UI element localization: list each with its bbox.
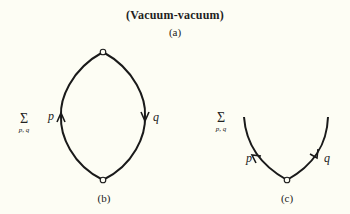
line-q bbox=[287, 117, 328, 180]
panel-c-lines bbox=[244, 117, 328, 180]
vertex-top-icon bbox=[100, 49, 106, 55]
arrow-q-icon bbox=[310, 149, 318, 158]
sum-symbol-c: Σ bbox=[211, 111, 231, 125]
panel-b-label: (b) bbox=[84, 192, 124, 204]
loop-right-line-q bbox=[103, 52, 145, 180]
sum-symbol-b: Σ bbox=[14, 112, 34, 126]
sum-index-c: p, q bbox=[209, 125, 233, 133]
vertex-icon bbox=[284, 177, 290, 183]
momentum-label-q-c: q bbox=[324, 151, 330, 166]
momentum-label-q-b: q bbox=[153, 110, 159, 125]
line-p bbox=[244, 117, 287, 180]
feynman-diagrams bbox=[0, 0, 350, 214]
momentum-label-p-c: p bbox=[246, 151, 252, 166]
vertex-bottom-icon bbox=[100, 177, 106, 183]
loop-left-line-p bbox=[61, 52, 103, 180]
sum-index-b: p, q bbox=[12, 126, 36, 134]
panel-c-label: (c) bbox=[267, 192, 307, 204]
momentum-label-p-b: p bbox=[48, 109, 54, 124]
panel-b-loop bbox=[61, 52, 145, 180]
